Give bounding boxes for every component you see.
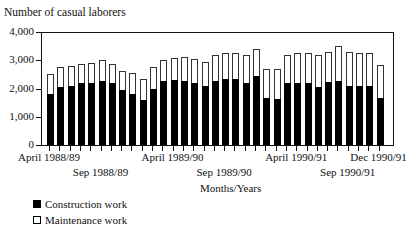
construction-segment <box>47 94 54 145</box>
maintenance-segment <box>335 46 342 81</box>
maintenance-segment <box>68 66 75 86</box>
construction-segment <box>294 83 301 145</box>
x-tick-mark <box>224 146 225 151</box>
maintenance-segment <box>356 53 363 85</box>
construction-segment <box>191 83 198 145</box>
bar-apr-1990 <box>294 53 301 145</box>
bar-nov-1990 <box>366 53 373 145</box>
construction-segment <box>119 90 126 145</box>
maintenance-segment <box>88 63 95 84</box>
maintenance-segment <box>181 57 188 81</box>
maintenance-segment <box>305 53 312 83</box>
construction-segment <box>212 81 219 145</box>
construction-segment <box>202 86 209 145</box>
maintenance-segment <box>140 79 147 100</box>
y-tick-label: 1,000 <box>0 111 34 122</box>
x-tick-mark <box>348 146 349 151</box>
legend-label: Maintenance work <box>45 214 127 226</box>
bar-dec-1989 <box>253 49 260 145</box>
y-axis-title: Number of casual laborers <box>4 6 126 18</box>
maintenance-segment <box>243 55 250 83</box>
plot-area <box>41 32 394 145</box>
maintenance-segment <box>99 60 106 80</box>
construction-segment <box>366 86 373 145</box>
construction-segment <box>99 81 106 145</box>
construction-segment <box>232 79 239 145</box>
x-tick-label: April 1989/90 <box>142 151 204 163</box>
x-tick-mark <box>255 146 256 151</box>
bar-may-1990 <box>305 53 312 145</box>
construction-segment <box>315 87 322 145</box>
x-tick-label: Sep 1988/89 <box>73 166 128 178</box>
legend-label: Construction work <box>45 198 127 210</box>
y-tick-label: 4,000 <box>0 26 34 37</box>
construction-segment <box>78 83 85 145</box>
x-tick-mark <box>90 146 91 151</box>
bar-nov-1988 <box>119 71 126 145</box>
maintenance-segment <box>232 53 239 79</box>
construction-segment <box>88 83 95 145</box>
x-tick-mark <box>131 146 132 151</box>
bar-feb-1990 <box>274 69 281 145</box>
bar-jan-1989 <box>140 79 147 145</box>
maintenance-segment <box>109 64 116 84</box>
bar-mar-1990 <box>284 55 291 145</box>
x-tick-mark <box>337 146 338 151</box>
bar-jul-1988 <box>78 64 85 145</box>
maintenance-segment <box>150 67 157 88</box>
construction-segment <box>263 98 270 145</box>
construction-segment <box>129 94 136 145</box>
construction-segment <box>160 81 167 145</box>
maintenance-segment <box>366 53 373 85</box>
construction-segment <box>356 86 363 145</box>
maintenance-segment <box>202 62 209 86</box>
construction-segment <box>325 82 332 145</box>
construction-segment <box>68 86 75 145</box>
construction-segment <box>274 99 281 145</box>
construction-segment <box>181 81 188 145</box>
x-tick-label: April 1990/91 <box>265 151 327 163</box>
y-tick-label: 2,000 <box>0 83 34 94</box>
maintenance-segment <box>191 59 198 83</box>
bar-aug-1989 <box>212 55 219 145</box>
maintenance-segment <box>129 73 136 94</box>
bar-may-1988 <box>57 67 64 145</box>
bar-apr-1989 <box>171 58 178 145</box>
construction-segment <box>222 79 229 145</box>
maintenance-segment <box>212 55 219 82</box>
maintenance-segment <box>160 60 167 81</box>
bar-aug-1988 <box>88 63 95 145</box>
bar-may-1989 <box>181 57 188 145</box>
y-tick-label: 3,000 <box>0 54 34 65</box>
construction-segment <box>305 83 312 145</box>
x-tick-label: Dec 1990/91 <box>350 151 407 163</box>
construction-segment <box>377 98 384 145</box>
maintenance-segment <box>78 64 85 83</box>
maintenance-segment <box>325 52 332 82</box>
x-axis-line <box>41 145 394 146</box>
bar-sep-1988 <box>99 60 106 145</box>
legend-item-maintenance: Maintenance work <box>33 214 127 226</box>
x-tick-mark <box>101 146 102 151</box>
y-tick-label: 0 <box>0 139 34 150</box>
x-tick-mark <box>111 146 112 151</box>
construction-segment <box>253 76 260 145</box>
bar-feb-1989 <box>150 67 157 145</box>
bar-dec-1990 <box>377 65 384 146</box>
maintenance-segment <box>263 69 270 99</box>
maintenance-segment <box>284 55 291 83</box>
maintenance-segment <box>119 71 126 90</box>
x-tick-mark <box>327 146 328 151</box>
construction-segment <box>284 83 291 145</box>
maintenance-segment <box>294 53 301 83</box>
construction-segment <box>109 83 116 145</box>
x-tick-mark <box>121 146 122 151</box>
bar-oct-1988 <box>109 64 116 145</box>
bar-dec-1988 <box>129 73 136 145</box>
bar-jul-1989 <box>202 62 209 145</box>
construction-segment <box>57 87 64 145</box>
bar-apr-1988 <box>47 74 54 145</box>
bar-jun-1988 <box>68 66 75 145</box>
bar-sep-1990 <box>346 52 353 145</box>
legend-item-construction: Construction work <box>33 198 127 210</box>
